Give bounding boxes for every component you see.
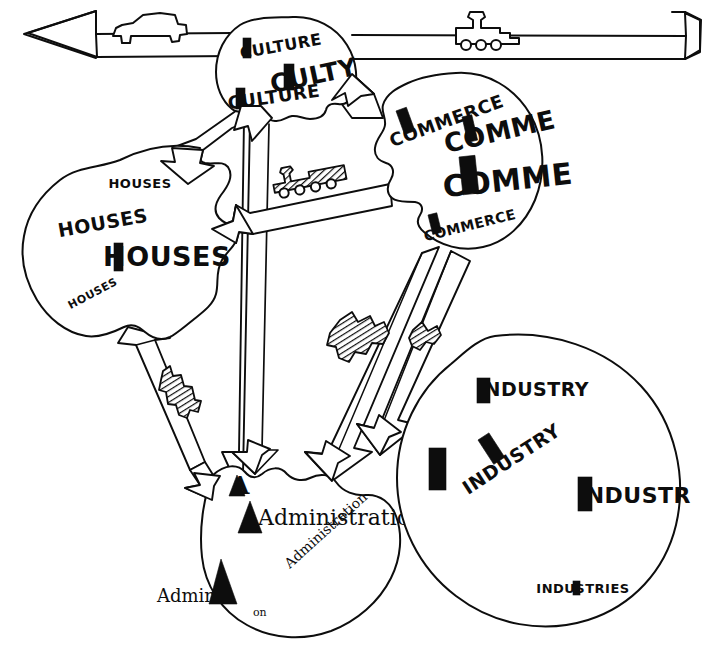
sketch-surface: HOUSES HOUSES HOUSES HOUSES CULTURE CULT… xyxy=(0,0,706,666)
industry-dropcap-1 xyxy=(477,378,490,403)
car-icon xyxy=(113,13,187,43)
transport-axis xyxy=(24,11,701,59)
zone-culture[interactable]: CULTURE CULTY CULTURE xyxy=(216,17,360,121)
culture-dropcap-2 xyxy=(284,64,294,90)
zone-industry-label-4: INDUSTRIES xyxy=(536,581,629,596)
zone-commerce[interactable]: COMMERCE COMME COMME COMMERCE xyxy=(375,73,575,249)
industry-dropcap-5 xyxy=(573,581,580,595)
zone-administration-label-5: on xyxy=(253,606,267,619)
train-hatched-icon xyxy=(270,156,347,199)
train-icon xyxy=(456,12,519,50)
zone-houses[interactable]: HOUSES HOUSES HOUSES HOUSES xyxy=(23,146,237,339)
diagram-canvas: HOUSES HOUSES HOUSES HOUSES CULTURE CULT… xyxy=(0,0,706,666)
zone-industry-label-1: INDUSTRY xyxy=(477,378,589,400)
arrowhead-into-culture-from-houses xyxy=(234,106,272,141)
industry-dropcap-4 xyxy=(578,477,592,511)
culture-dropcap-1 xyxy=(243,38,251,58)
zone-industry[interactable]: INDUSTRY INDUSTRY INDUSTR INDUSTRIES xyxy=(397,335,691,627)
houses-dropcap xyxy=(114,243,123,271)
zone-industry-label-3: INDUSTR xyxy=(577,483,691,508)
zone-houses-label-1: HOUSES xyxy=(108,176,171,191)
industry-dropcap-2 xyxy=(429,448,446,490)
axis-arrow-right-icon xyxy=(685,12,701,59)
